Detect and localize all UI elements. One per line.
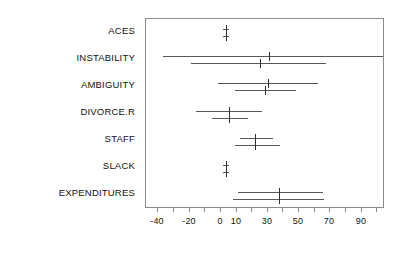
axis-tick xyxy=(345,208,346,212)
estimate-marker xyxy=(226,168,227,177)
interval-line xyxy=(235,145,280,146)
interval-line xyxy=(163,56,383,57)
plot-area xyxy=(146,19,383,207)
axis-tick-label: 50 xyxy=(293,216,303,226)
axis-tick xyxy=(236,208,237,212)
interval-line xyxy=(238,192,322,193)
category-label-divorce-r: DIVORCE.R xyxy=(0,107,135,117)
axis-tick-label: 90 xyxy=(356,216,366,226)
category-label-aces: ACES xyxy=(0,26,135,36)
x-axis: -40-2001030507090 xyxy=(145,208,384,253)
axis-tick xyxy=(329,208,330,212)
estimate-marker xyxy=(265,86,266,95)
category-label-column: ACESINSTABILITYAMBIGUITYDIVORCE.RSTAFFSL… xyxy=(0,0,141,210)
axis-tick xyxy=(361,208,362,212)
axis-tick-label: 0 xyxy=(217,216,222,226)
axis-tick xyxy=(173,208,174,212)
axis-tick-label: -40 xyxy=(150,216,164,226)
category-label-instability: INSTABILITY xyxy=(0,53,135,63)
axis-tick xyxy=(376,208,377,212)
axis-tick-label: 30 xyxy=(262,216,272,226)
estimate-marker xyxy=(279,195,280,204)
estimate-marker xyxy=(229,114,230,123)
estimate-marker xyxy=(268,79,269,88)
axis-tick xyxy=(298,208,299,212)
axis-tick-label: 70 xyxy=(324,216,334,226)
interval-line xyxy=(191,63,325,64)
chart-root: ACESINSTABILITYAMBIGUITYDIVORCE.RSTAFFSL… xyxy=(0,0,413,253)
estimate-marker xyxy=(226,32,227,41)
axis-tick-label: -20 xyxy=(182,216,196,226)
axis-tick xyxy=(189,208,190,212)
axis-tick xyxy=(282,208,283,212)
category-label-staff: STAFF xyxy=(0,134,135,144)
axis-tick xyxy=(157,208,158,212)
estimate-marker xyxy=(260,59,261,68)
axis-tick-label: 10 xyxy=(231,216,241,226)
axis-tick xyxy=(267,208,268,212)
estimate-marker xyxy=(255,141,256,150)
category-label-slack: SLACK xyxy=(0,161,135,171)
estimate-marker xyxy=(269,52,270,61)
interval-line xyxy=(240,138,273,139)
axis-tick xyxy=(204,208,205,212)
plot-frame xyxy=(145,18,384,208)
axis-tick xyxy=(314,208,315,212)
axis-tick xyxy=(220,208,221,212)
category-label-expenditures: EXPENDITURES xyxy=(0,188,135,198)
axis-tick xyxy=(251,208,252,212)
category-label-ambiguity: AMBIGUITY xyxy=(0,80,135,90)
